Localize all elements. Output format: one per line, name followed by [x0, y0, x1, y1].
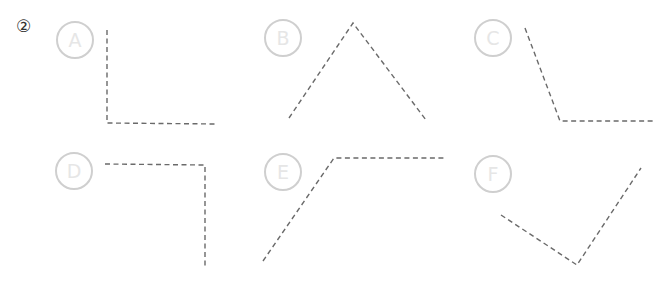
angle-figures	[0, 0, 667, 289]
angle-shape-b	[289, 23, 426, 120]
label-circle-d: D	[55, 152, 93, 190]
label-circle-f: F	[474, 155, 512, 193]
label-circle-a: A	[56, 21, 94, 59]
angle-shape-c	[525, 28, 655, 121]
label-circle-c: C	[474, 19, 512, 57]
label-a: A	[69, 31, 82, 50]
label-e: E	[277, 163, 289, 182]
angle-shape-a	[107, 30, 217, 124]
angle-shape-d	[105, 164, 205, 268]
label-b: B	[276, 29, 289, 48]
label-f: F	[488, 165, 499, 184]
angle-shape-f	[501, 168, 641, 265]
label-d: D	[67, 162, 82, 181]
label-circle-b: B	[264, 19, 302, 57]
label-circle-e: E	[264, 153, 302, 191]
label-c: C	[486, 29, 499, 48]
